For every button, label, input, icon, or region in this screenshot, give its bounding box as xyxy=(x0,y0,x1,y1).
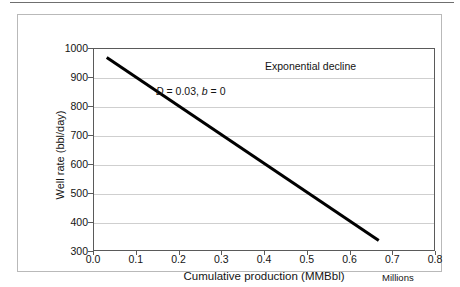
x-axis-units-note: Millions xyxy=(382,272,414,283)
x-tick-label-0-8: 0.8 xyxy=(415,254,455,265)
page-top-rule xyxy=(10,2,454,3)
plot-area: Exponential decline D = 0.03, b = 0 xyxy=(93,48,435,251)
y-tick-label-500: 500 xyxy=(48,188,88,199)
series-line-chart xyxy=(94,49,434,250)
series-line-exponential-decline xyxy=(107,58,379,241)
y-axis-tick-labels: 3004005006007008009001000 xyxy=(46,48,88,251)
y-tick-label-600: 600 xyxy=(48,159,88,170)
x-tick-label-0-5: 0.5 xyxy=(287,254,327,265)
y-tick-label-400: 400 xyxy=(48,217,88,228)
annotation-decline-parameters: D = 0.03, b = 0 xyxy=(156,85,226,97)
y-tick-label-1000: 1000 xyxy=(48,43,88,54)
figure-frame: Well rate (bbl/day) 30040050060070080090… xyxy=(17,14,442,272)
y-tick-label-800: 800 xyxy=(48,101,88,112)
param-b-value: = 0 xyxy=(208,85,226,97)
x-tick-label-0-1: 0.1 xyxy=(116,254,156,265)
y-tick-label-900: 900 xyxy=(48,72,88,83)
x-tick-label-0-4: 0.4 xyxy=(244,254,284,265)
x-axis-tick-labels: 0.00.10.20.30.40.50.60.70.8 xyxy=(93,254,435,268)
x-tick-label-0-2: 0.2 xyxy=(159,254,199,265)
param-D-symbol: D xyxy=(156,85,164,97)
y-tick-label-700: 700 xyxy=(48,130,88,141)
x-tick-label-0: 0.0 xyxy=(73,254,113,265)
param-D-value: = 0.03, xyxy=(164,85,202,97)
x-tick-label-0-3: 0.3 xyxy=(201,254,241,265)
series-group xyxy=(107,58,379,241)
x-tick-label-0-7: 0.7 xyxy=(372,254,412,265)
x-tick-label-0-6: 0.6 xyxy=(330,254,370,265)
annotation-exponential-decline: Exponential decline xyxy=(265,60,356,72)
